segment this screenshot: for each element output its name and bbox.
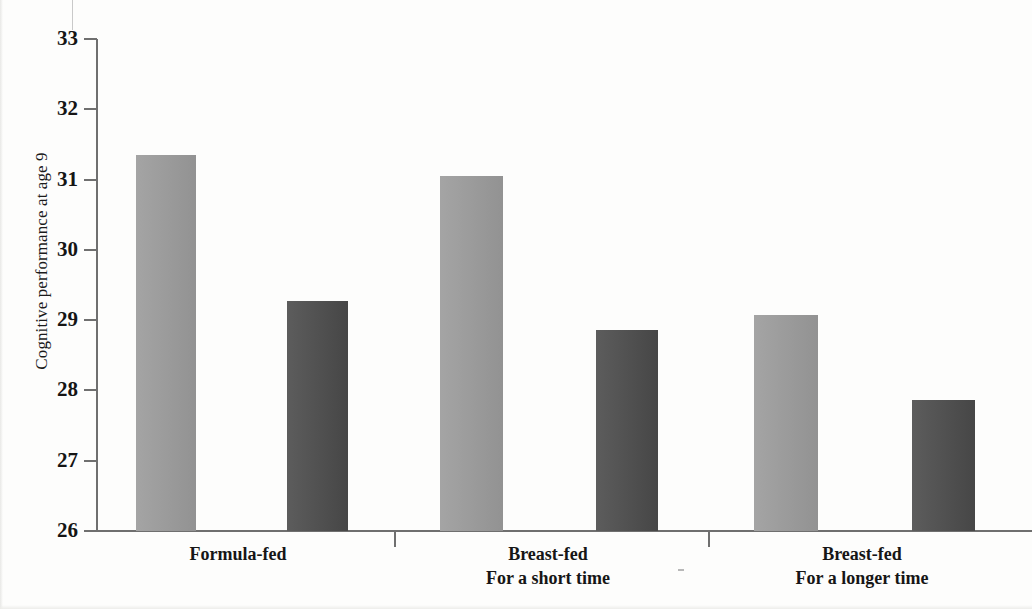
scan-edge-bottom [0, 605, 1032, 609]
y-axis-tick-label: 32 [30, 98, 78, 119]
bar [136, 155, 196, 531]
x-axis-group-label: Breast-fedFor a short time [378, 543, 718, 591]
y-axis-tick [84, 179, 97, 181]
y-axis-tick [84, 530, 97, 532]
y-axis-tick [84, 460, 97, 462]
y-axis-tick [84, 249, 97, 251]
y-axis-tick-label: 27 [30, 450, 78, 471]
x-axis-group-label: Formula-fed [68, 543, 408, 567]
y-axis-tick-label: 28 [30, 379, 78, 400]
y-axis-line [96, 39, 98, 532]
bar [754, 315, 818, 531]
y-axis-tick-label: 29 [30, 309, 78, 330]
x-axis-line [96, 530, 1032, 532]
scan-speck [678, 569, 684, 571]
x-axis-group-label-line: Breast-fed [692, 543, 1032, 567]
y-axis-tick [84, 389, 97, 391]
x-axis-group-label-line: For a short time [378, 567, 718, 591]
y-axis-tick-label: 31 [30, 169, 78, 190]
bar [596, 330, 658, 531]
bar [440, 176, 503, 531]
bar [287, 301, 348, 531]
y-axis-tick [84, 38, 97, 40]
x-axis-group-label-line: Formula-fed [68, 543, 408, 567]
y-axis-tick [84, 319, 97, 321]
y-axis-tick-label: 30 [30, 239, 78, 260]
bar [912, 400, 975, 531]
x-axis-group-label-line: Breast-fed [378, 543, 718, 567]
y-axis-tick-label: 33 [30, 28, 78, 49]
y-axis-tick [84, 108, 97, 110]
x-axis-group-label: Breast-fedFor a longer time [692, 543, 1032, 591]
y-axis-tick-label: 26 [30, 520, 78, 541]
scan-edge-left [0, 0, 3, 609]
x-axis-group-label-line: For a longer time [692, 567, 1032, 591]
chart-figure: Cognitive performance at age 9 262728293… [0, 0, 1032, 609]
